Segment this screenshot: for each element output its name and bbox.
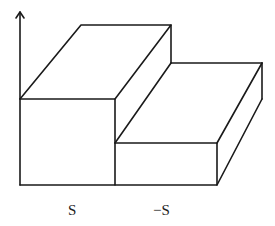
- step-block-diagram: [0, 0, 275, 226]
- short-block: [115, 63, 262, 185]
- label-s: S: [68, 203, 76, 218]
- tall-block: [20, 25, 171, 185]
- label-minus-s: −S: [153, 203, 170, 218]
